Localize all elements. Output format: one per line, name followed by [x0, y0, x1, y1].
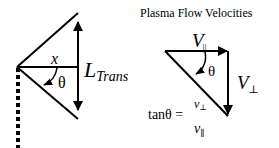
right-velocity-diagram: Plasma Flow Velocities θ V|| V⊥ tanθ = v… [140, 6, 259, 138]
formula-denominator: v∥ [194, 121, 204, 138]
theta-label-left: θ [58, 74, 66, 91]
v-perp-subscript: ⊥ [249, 83, 259, 95]
l-trans-label: LTrans [83, 57, 129, 84]
denominator-subscript: ∥ [200, 128, 204, 138]
l-trans-main: L [83, 57, 96, 82]
v-parallel-subscript: || [203, 42, 207, 53]
v-perp-label: V⊥ [237, 72, 259, 95]
numerator-subscript: ⊥ [199, 103, 207, 112]
lower-hypotenuse [17, 67, 78, 119]
formula-lhs: tanθ = [148, 107, 183, 122]
theta-angle-arc-right [196, 52, 206, 74]
x-label: x [50, 50, 58, 67]
plasma-flow-diagram: x θ LTrans Plasma Flow Velocities θ V|| … [0, 0, 279, 148]
left-geometry-diagram: x θ LTrans [17, 13, 129, 148]
tan-theta-formula: tanθ = v⊥ v∥ [148, 97, 207, 138]
diagram-title: Plasma Flow Velocities [140, 6, 253, 20]
v-parallel-label: V|| [192, 30, 207, 53]
l-trans-subscript: Trans [96, 69, 128, 84]
upper-hypotenuse [17, 13, 78, 67]
theta-label-right: θ [208, 63, 215, 79]
theta-angle-arc [44, 68, 57, 85]
formula-numerator: v⊥ [194, 97, 207, 112]
